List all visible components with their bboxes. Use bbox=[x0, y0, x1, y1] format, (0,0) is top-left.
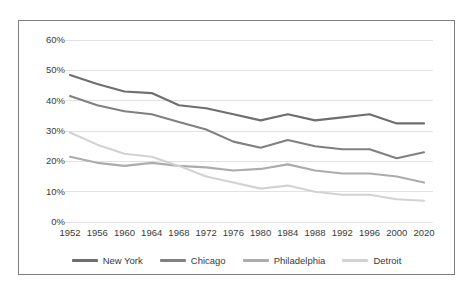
legend-item-detroit[interactable]: Detroit bbox=[342, 255, 401, 266]
legend-color-swatch bbox=[72, 259, 98, 262]
y-axis-tick-label: 20% bbox=[23, 156, 65, 166]
series-line-philadelphia bbox=[70, 157, 424, 183]
y-axis-tick-label: 0% bbox=[23, 217, 65, 227]
y-axis-tick-label: 10% bbox=[23, 187, 65, 197]
legend-label: Detroit bbox=[373, 255, 401, 266]
series-line-new-york bbox=[70, 75, 424, 124]
x-axis-tick-label: 2020 bbox=[407, 228, 441, 238]
legend-label: Chicago bbox=[191, 255, 226, 266]
y-axis-tick-label: 30% bbox=[23, 126, 65, 136]
legend-item-philadelphia[interactable]: Philadelphia bbox=[243, 255, 326, 266]
y-axis-tick-label: 60% bbox=[23, 35, 65, 45]
series-line-chicago bbox=[70, 96, 424, 158]
legend-label: New York bbox=[103, 255, 143, 266]
chart-legend: New YorkChicagoPhiladelphiaDetroit bbox=[19, 255, 454, 266]
legend-item-chicago[interactable]: Chicago bbox=[160, 255, 226, 266]
y-axis-tick-label: 50% bbox=[23, 65, 65, 75]
legend-color-swatch bbox=[160, 259, 186, 262]
legend-color-swatch bbox=[342, 259, 368, 262]
y-axis-tick-label: 40% bbox=[23, 96, 65, 106]
legend-item-new-york[interactable]: New York bbox=[72, 255, 143, 266]
legend-label: Philadelphia bbox=[274, 255, 326, 266]
plot-area: 60%50%40%30%20%10%0%19521956196019641968… bbox=[19, 21, 454, 274]
chart-container: 60%50%40%30%20%10%0%19521956196019641968… bbox=[18, 20, 455, 275]
legend-color-swatch bbox=[243, 259, 269, 262]
